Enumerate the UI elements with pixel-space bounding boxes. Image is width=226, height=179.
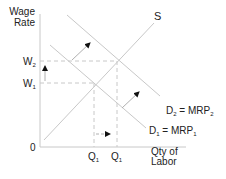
- x-axis-label-line2: Labor: [151, 156, 177, 167]
- shift-arrow-lower: [122, 92, 139, 108]
- shift-arrow-upper: [72, 43, 90, 60]
- w1-label: W1: [23, 78, 36, 90]
- supply-curve: [44, 23, 154, 140]
- demand2-label: D2 = MRP2: [166, 105, 214, 117]
- labor-market-diagram: Wage Rate W2 W1 0 Q1 Q1 Qty of Labor S D…: [0, 0, 226, 179]
- demand1-label: D1 = MRP1: [149, 125, 197, 137]
- w2-label: W2: [23, 56, 36, 68]
- demand-curve-1: [50, 45, 146, 128]
- y-axis-label-line2: Rate: [14, 17, 36, 28]
- supply-label: S: [154, 10, 161, 22]
- origin-label: 0: [30, 142, 36, 153]
- q2-label: Q1: [111, 151, 123, 163]
- y-axis-label-line1: Wage: [9, 6, 35, 17]
- q1-label: Q1: [88, 151, 100, 163]
- demand-curve-2: [67, 15, 160, 96]
